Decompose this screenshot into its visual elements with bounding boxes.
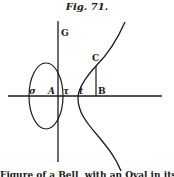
curve-diagram: G C σ A τ t B (0, 0, 174, 177)
label-g: G (61, 28, 69, 38)
label-sigma: σ (29, 86, 36, 96)
label-b: B (98, 86, 106, 96)
label-a: A (47, 86, 55, 96)
figure-caption: Figure of a Bell, with an Oval in its He… (0, 170, 174, 177)
label-tau: τ (63, 86, 70, 96)
label-t: t (79, 86, 84, 96)
label-c: C (92, 53, 99, 63)
